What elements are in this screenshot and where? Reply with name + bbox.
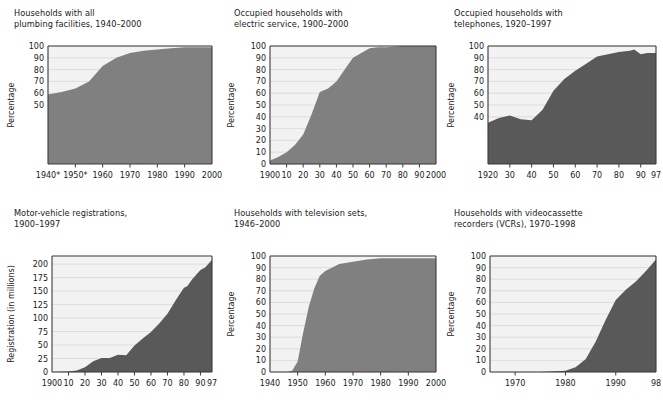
x-tick-label: 97 <box>651 171 661 180</box>
y-axis-title: Percentage <box>7 82 16 127</box>
y-tick-label: 100 <box>29 42 44 51</box>
x-tick-label: 1900 <box>260 171 280 180</box>
y-tick-label: 20 <box>256 136 266 145</box>
y-tick-label: 10 <box>256 148 266 157</box>
x-tick-label: 40 <box>113 379 123 388</box>
y-tick-label: 20 <box>476 345 486 354</box>
chart-panel-motor-vehicles: Motor-vehicle registrations, 1900–199702… <box>0 200 220 408</box>
y-tick-label: 90 <box>34 54 44 63</box>
x-axis-ticks: 19001020304050607080902000 <box>260 164 446 180</box>
y-axis-title: Percentage <box>227 82 236 127</box>
y-tick-label: 70 <box>256 77 266 86</box>
x-tick-label: 1980 <box>147 171 167 180</box>
x-tick-label: 1990 <box>174 171 194 180</box>
x-tick-label: 80 <box>614 171 624 180</box>
x-tick-label: 1980 <box>555 379 575 388</box>
x-tick-label: 50 <box>129 379 139 388</box>
x-tick-label: 1960 <box>315 379 335 388</box>
y-tick-label: 40 <box>476 322 486 331</box>
x-tick-label: 1970 <box>120 171 140 180</box>
x-tick-label: 10 <box>63 379 73 388</box>
chart-panel-television: Households with television sets, 1946–20… <box>220 200 440 408</box>
y-tick-label: 80 <box>474 66 484 75</box>
x-tick-label: 1990 <box>398 379 418 388</box>
x-tick-label: 30 <box>505 171 515 180</box>
y-tick-label: 0 <box>481 368 486 377</box>
x-tick-label: 98 <box>651 379 661 388</box>
y-tick-label: 90 <box>474 54 484 63</box>
x-tick-label: 90 <box>414 171 424 180</box>
y-tick-label: 50 <box>476 310 486 319</box>
x-tick-label: 80 <box>179 379 189 388</box>
x-tick-label: 1950* <box>63 171 87 180</box>
x-tick-label: 10 <box>282 171 292 180</box>
y-tick-label: 150 <box>33 287 48 296</box>
y-tick-label: 30 <box>256 333 266 342</box>
y-tick-label: 60 <box>256 298 266 307</box>
y-tick-label: 70 <box>256 287 266 296</box>
y-tick-label: 70 <box>474 77 484 86</box>
x-tick-label: 1990 <box>606 379 626 388</box>
y-axis-title: Registration (in millions) <box>7 265 16 363</box>
x-tick-label: 70 <box>592 171 602 180</box>
x-tick-label: 20 <box>80 379 90 388</box>
chart-title-television: Households with television sets, 1946–20… <box>234 208 436 230</box>
y-axis-ticks: 0255075100125150175200 <box>33 260 48 377</box>
chart-title-motor-vehicles: Motor-vehicle registrations, 1900–1997 <box>14 208 216 230</box>
chart-area-vcr: 010203040506070809010019701980199098Perc… <box>444 232 655 408</box>
y-axis-title: Percentage <box>447 82 456 127</box>
y-tick-label: 50 <box>256 101 266 110</box>
y-tick-label: 40 <box>256 113 266 122</box>
chart-svg-motor-vehicles: 0255075100125150175200190010203040506070… <box>4 232 224 408</box>
x-tick-label: 60 <box>570 171 580 180</box>
plot-right-mask <box>656 44 663 168</box>
y-axis-title: Percentage <box>227 291 236 336</box>
y-axis-title: Percentage <box>447 291 456 336</box>
y-tick-label: 50 <box>38 341 48 350</box>
y-tick-label: 80 <box>476 275 486 284</box>
y-axis-ticks: 0102030405060708090100 <box>251 252 266 377</box>
x-tick-label: 90 <box>636 171 646 180</box>
y-axis-ticks: 0102030405060708090100 <box>251 42 266 169</box>
y-tick-label: 20 <box>256 345 266 354</box>
x-tick-label: 1920 <box>478 171 498 180</box>
y-tick-label: 30 <box>256 125 266 134</box>
y-tick-label: 50 <box>34 101 44 110</box>
chart-svg-telephones: 40506070809010019203040506070809097Perce… <box>444 32 663 206</box>
x-axis-ticks: 190010203040506070809097 <box>42 372 217 388</box>
y-tick-label: 60 <box>476 298 486 307</box>
y-tick-label: 80 <box>34 66 44 75</box>
y-tick-label: 50 <box>256 310 266 319</box>
y-tick-label: 100 <box>251 42 266 51</box>
y-tick-label: 70 <box>476 287 486 296</box>
y-tick-label: 125 <box>33 301 48 310</box>
x-axis-ticks: 1940*1950*19601970198019902000 <box>36 164 222 180</box>
chart-title-plumbing: Households with all plumbing facilities,… <box>14 8 216 30</box>
y-tick-label: 100 <box>33 314 48 323</box>
chart-panel-plumbing: Households with all plumbing facilities,… <box>0 0 220 200</box>
y-axis-ticks: 0102030405060708090100 <box>471 252 486 377</box>
y-tick-label: 70 <box>34 77 44 86</box>
y-tick-label: 90 <box>256 54 266 63</box>
y-tick-label: 50 <box>474 101 484 110</box>
y-tick-label: 60 <box>474 89 484 98</box>
chart-panel-telephones: Occupied households with telephones, 192… <box>440 0 659 200</box>
chart-title-electric: Occupied households with electric servic… <box>234 8 436 30</box>
y-tick-label: 10 <box>256 356 266 365</box>
y-tick-label: 75 <box>38 328 48 337</box>
chart-svg-vcr: 010203040506070809010019701980199098Perc… <box>444 232 663 408</box>
y-tick-label: 25 <box>38 355 48 364</box>
x-axis-ticks: 19203040506070809097 <box>478 164 661 180</box>
x-tick-label: 40 <box>527 171 537 180</box>
x-tick-label: 97 <box>207 379 217 388</box>
plot-right-mask <box>656 254 663 376</box>
y-tick-label: 0 <box>261 160 266 169</box>
chart-area-telephones: 40506070809010019203040506070809097Perce… <box>444 32 655 206</box>
x-tick-label: 1970 <box>505 379 525 388</box>
x-tick-label: 80 <box>398 171 408 180</box>
x-tick-label: 1970 <box>343 379 363 388</box>
x-tick-label: 1940 <box>260 379 280 388</box>
y-tick-label: 80 <box>256 66 266 75</box>
x-tick-label: 50 <box>348 171 358 180</box>
